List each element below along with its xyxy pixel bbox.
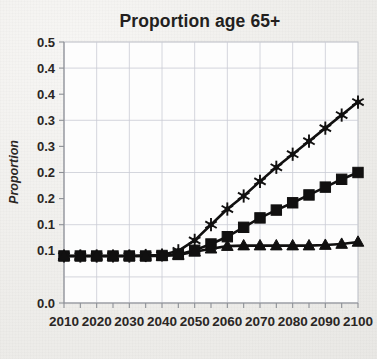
x-tick-label: 2070 xyxy=(245,314,275,329)
x-tick-label: 2020 xyxy=(82,314,112,329)
x-tick-label: 2080 xyxy=(278,314,308,329)
data-point-marker-square xyxy=(238,222,248,232)
y-axis-label: Proportion xyxy=(7,140,21,204)
y-tick-label: 0.5 xyxy=(37,35,55,50)
y-tick-label: 0.3 xyxy=(37,139,55,154)
y-tick-label: 0.0 xyxy=(37,296,55,311)
x-tick-label: 2090 xyxy=(310,314,340,329)
data-point-marker-square xyxy=(320,182,330,192)
x-tick-label: 2100 xyxy=(343,314,373,329)
y-tick-label: 0.1 xyxy=(37,243,55,258)
x-tick-label: 2030 xyxy=(114,314,144,329)
y-tick-label: 0.4 xyxy=(37,61,56,76)
y-tick-label: 0.2 xyxy=(37,191,55,206)
y-tick-label: 0.2 xyxy=(37,165,55,180)
y-tick-label: 0.4 xyxy=(37,87,56,102)
x-tick-label: 2010 xyxy=(49,314,79,329)
data-point-marker-square xyxy=(336,174,346,184)
y-axis-tick-labels: 0.50.40.40.30.30.20.20.10.10.0 xyxy=(37,35,56,311)
x-tick-label: 2040 xyxy=(147,314,177,329)
x-tick-label: 2060 xyxy=(212,314,242,329)
data-point-marker-square xyxy=(304,190,314,200)
data-point-marker-square xyxy=(287,198,297,208)
x-axis-tick-labels: 2010202020302040205020602070208020902100 xyxy=(49,314,373,329)
chart-figure: Proportion age 65+ Proportion 0.50.40.40… xyxy=(0,0,377,359)
y-axis-tick-marks xyxy=(59,42,64,303)
y-tick-label: 0.3 xyxy=(37,113,55,128)
x-tick-label: 2050 xyxy=(180,314,210,329)
data-point-marker-square xyxy=(353,167,363,177)
chart-title: Proportion age 65+ xyxy=(120,11,281,31)
data-point-marker-square xyxy=(271,205,281,215)
y-tick-label: 0.1 xyxy=(37,217,55,232)
data-point-marker-square xyxy=(255,213,265,223)
proportion-age-65-plus-line-chart: Proportion age 65+ Proportion 0.50.40.40… xyxy=(0,0,377,359)
x-axis-tick-marks xyxy=(64,303,358,308)
